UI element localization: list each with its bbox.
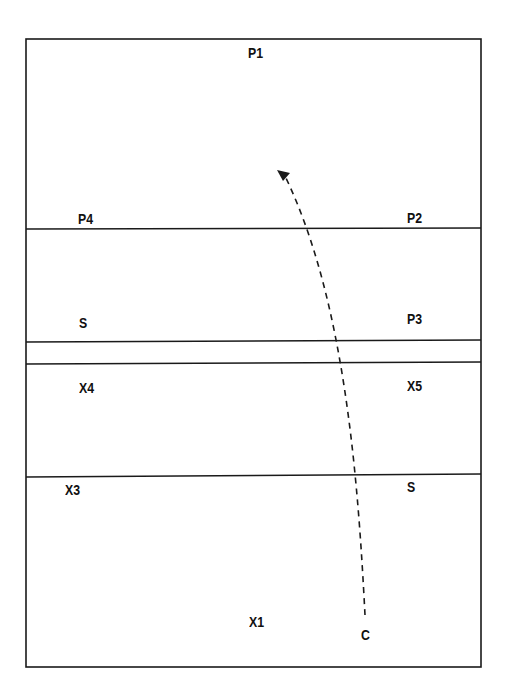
label-s-left: S [79, 315, 87, 330]
label-x3: X3 [65, 482, 80, 497]
play-diagram: P1 P4 P2 S P3 X4 X5 X3 S X1 C [0, 0, 507, 698]
divider-line-2 [26, 340, 481, 342]
label-p2: P2 [407, 210, 422, 225]
divider-line-4 [26, 474, 481, 477]
divider-line-1 [26, 228, 481, 229]
label-p3: P3 [407, 311, 422, 326]
court-svg [0, 0, 507, 698]
movement-path [285, 176, 365, 615]
label-p4: P4 [78, 211, 93, 226]
label-s-right: S [407, 479, 415, 494]
label-x1: X1 [249, 614, 264, 629]
label-x5: X5 [407, 378, 422, 393]
court-boundary [26, 39, 481, 667]
label-x4: X4 [79, 380, 94, 395]
label-p1: P1 [248, 45, 263, 60]
divider-line-3 [26, 362, 481, 364]
arrowhead-icon [277, 170, 290, 181]
label-c: C [361, 627, 370, 642]
